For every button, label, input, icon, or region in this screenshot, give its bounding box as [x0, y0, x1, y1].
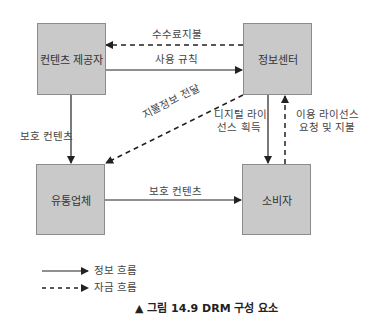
- license-acquire-label: 디지털 라이 선스 획득: [214, 108, 264, 134]
- node-label: 유통업체: [51, 192, 91, 208]
- figure-caption: ▲ 그림 14.9 DRM 구성 요소: [135, 299, 278, 315]
- node-content-provider: 컨텐츠 제공자: [37, 23, 106, 95]
- protected-content-down-label: 보호 컨텐츠: [20, 130, 73, 143]
- legend-info-flow-label: 정보 흐름: [94, 264, 137, 277]
- fee-payment-label: 수수료지불: [152, 28, 202, 41]
- license-request-label: 이용 라이선스 요청 및 지불: [296, 108, 358, 134]
- license-request-line1: 이용 라이선스: [296, 108, 358, 121]
- node-consumer: 소비자: [242, 164, 311, 235]
- node-clearinghouse: 정보센터: [243, 23, 312, 95]
- node-distributor: 유통업체: [36, 164, 105, 235]
- license-acquire-line2: 선스 획득: [214, 121, 264, 134]
- legend-money-flow-label: 자금 흐름: [94, 281, 137, 294]
- usage-rules-label: 사용 규칙: [155, 53, 198, 66]
- node-label: 정보센터: [258, 51, 298, 67]
- license-acquire-line1: 디지털 라이: [214, 108, 264, 121]
- node-label: 컨텐츠 제공자: [40, 51, 104, 67]
- protected-content-right-label: 보호 컨텐츠: [149, 185, 202, 198]
- node-label: 소비자: [262, 192, 292, 208]
- license-request-line2: 요청 및 지불: [296, 121, 358, 134]
